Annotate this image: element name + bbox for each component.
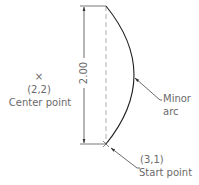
arc-label-line2: arc [163, 106, 179, 117]
center-point-marker: × [35, 71, 43, 82]
center-point-coords: (2,2) [27, 84, 51, 95]
start-point-label: Start point [139, 167, 192, 178]
arc-label-line1: Minor [163, 93, 192, 104]
center-point-label: Center point [9, 97, 71, 108]
start-point-coords: (3,1) [140, 154, 164, 165]
arc-leader-line [135, 78, 160, 100]
start-leader-line [111, 148, 137, 168]
dimension-label: 2.00 [78, 62, 89, 84]
minor-arc [106, 6, 134, 144]
arc-diagram: 2.00 × (2,2) Center point Minor arc (3,1… [0, 0, 199, 185]
